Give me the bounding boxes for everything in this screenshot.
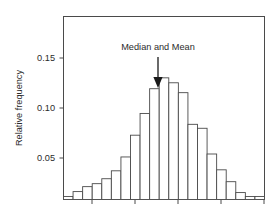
histogram-bar [92, 184, 102, 200]
histogram-bar [73, 192, 83, 200]
histogram-bar [150, 89, 160, 200]
histogram-bar [159, 78, 169, 200]
histogram-figure: 0.15 0.10 0.05 Relative frequency Median… [0, 0, 275, 224]
histogram-bar [207, 154, 217, 200]
histogram-bar [131, 135, 141, 199]
histogram-bar [226, 182, 236, 200]
histogram-bar [111, 171, 121, 200]
histogram-bars [64, 78, 265, 200]
y-axis-title: Relative frequency [14, 70, 24, 146]
y-tick-label-high: 0.15 [37, 53, 55, 63]
histogram-bar [217, 170, 227, 200]
y-axis-ticks [60, 58, 64, 158]
y-tick-label-mid: 0.10 [37, 103, 55, 113]
y-tick-label-low: 0.05 [37, 153, 55, 163]
histogram-bar [169, 83, 179, 200]
histogram-bar [236, 193, 246, 200]
histogram-plot: 0.15 0.10 0.05 Relative frequency Median… [0, 0, 275, 224]
histogram-bar [188, 124, 198, 199]
histogram-bar [102, 179, 112, 200]
histogram-bar [178, 93, 188, 200]
histogram-bar [83, 187, 93, 200]
histogram-bar [255, 197, 265, 200]
histogram-bar [198, 128, 208, 199]
histogram-bar [245, 197, 255, 200]
annotation-label: Median and Mean [121, 42, 195, 52]
histogram-bar [64, 197, 74, 200]
x-axis-ticks [92, 200, 264, 205]
histogram-bar [140, 113, 150, 199]
histogram-bar [121, 157, 131, 200]
